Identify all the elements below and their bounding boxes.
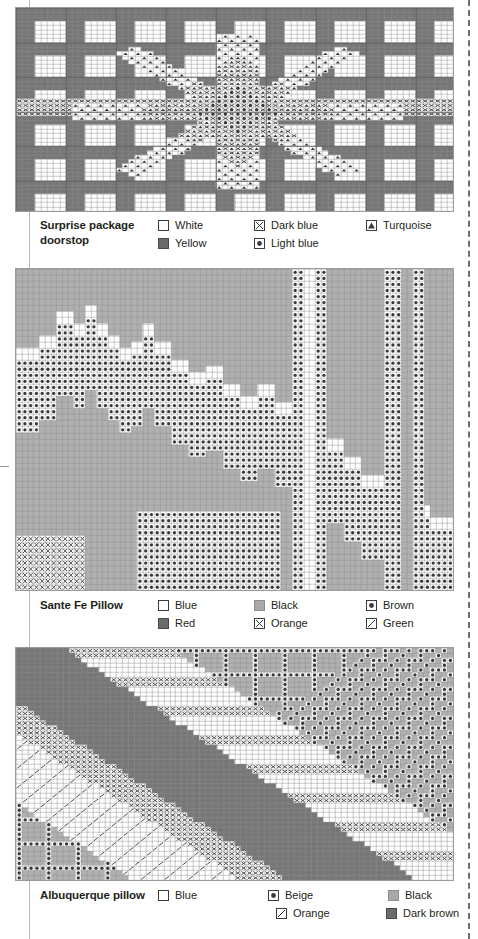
legend-label: Turquoise <box>383 218 432 232</box>
legend-key-dark-brown: Dark brown <box>386 906 478 920</box>
swatch-empty-square-icon <box>158 220 169 231</box>
swatch-slash-square-icon <box>276 908 287 919</box>
swatch-solid-square-icon <box>254 600 265 611</box>
page-root: Surprise package doorstop White Dark blu… <box>0 0 478 939</box>
legend-label: Yellow <box>175 236 206 250</box>
legend-key-empty-slot <box>366 236 476 250</box>
legend-key-orange: Orange <box>276 906 386 920</box>
chart-canvas-3 <box>15 647 454 881</box>
legend-key-turquoise: Turquoise <box>366 218 476 232</box>
legend-row-3-2: Orange Dark brown Light brown <box>158 906 478 920</box>
legend-label: Beige <box>285 888 313 902</box>
legend-label: Dark brown <box>403 906 459 920</box>
legend-label: Orange <box>293 906 330 920</box>
chart-albuquerque-pillow <box>15 647 454 881</box>
swatch-solid-square-icon <box>388 890 399 901</box>
chart-canvas-2 <box>15 268 454 591</box>
chart-title-2-line1: Sante Fe Pillow <box>40 598 158 613</box>
swatch-empty-square-icon <box>158 600 169 611</box>
legend-label: Dark blue <box>271 218 318 232</box>
legend-key-white: White <box>158 218 254 232</box>
legend-key-orange: Orange <box>254 616 366 630</box>
legend-row-2-2: Red Orange Green <box>158 616 476 630</box>
swatch-empty-square-icon <box>158 890 169 901</box>
legend-row-2-1: Blue Black Brown <box>158 598 476 612</box>
legend-key-brown: Brown <box>366 598 476 612</box>
chart-title-1-line1: Surprise package <box>40 218 158 233</box>
legend-label: Black <box>271 598 298 612</box>
legend-row-1-1: White Dark blue Turquoise <box>158 218 476 232</box>
legend-keys-1: White Dark blue Turquoise <box>158 218 476 254</box>
legend-row-1-2: Yellow Light blue <box>158 236 476 250</box>
swatch-slash-square-icon <box>366 618 377 629</box>
legend-label: Blue <box>175 888 197 902</box>
swatch-dot-square-icon <box>268 890 279 901</box>
legend-key-red: Red <box>158 616 254 630</box>
swatch-solid-square-icon <box>386 908 397 919</box>
chart-title-2: Sante Fe Pillow <box>40 598 158 613</box>
swatch-dot-square-icon <box>366 600 377 611</box>
legend-key-light-blue: Light blue <box>254 236 366 250</box>
swatch-cross-x-square-icon <box>254 220 265 231</box>
legend-indent-spacer <box>158 906 276 920</box>
legend-label: Brown <box>383 598 414 612</box>
legend-surprise-package-doorstop: Surprise package doorstop White Dark blu… <box>40 218 460 254</box>
legend-keys-2: Blue Black Brown <box>158 598 476 634</box>
legend-key-black: Black <box>388 888 478 902</box>
swatch-solid-square-icon <box>158 618 169 629</box>
legend-key-black: Black <box>254 598 366 612</box>
swatch-dot-square-icon <box>254 238 265 249</box>
legend-albuquerque-pillow: Albuquerque pillow Blue Beige <box>40 888 460 924</box>
legend-label: Orange <box>271 616 308 630</box>
legend-label: Green <box>383 616 414 630</box>
page-cut-mark <box>468 0 470 939</box>
legend-key-green: Green <box>366 616 476 630</box>
legend-key-yellow: Yellow <box>158 236 254 250</box>
legend-key-blue: Blue <box>158 598 254 612</box>
chart-title-1: Surprise package doorstop <box>40 218 158 247</box>
legend-label: White <box>175 218 203 232</box>
chart-sante-fe-pillow <box>15 268 454 591</box>
legend-label: Red <box>175 616 195 630</box>
legend-row-3-1: Blue Beige Black <box>158 888 478 902</box>
swatch-triangle-square-icon <box>366 220 377 231</box>
legend-sante-fe-pillow: Sante Fe Pillow Blue Black <box>40 598 460 634</box>
chart-title-1-line2: doorstop <box>40 233 158 248</box>
chart-title-3: Albuquerque pillow <box>40 888 158 903</box>
legend-label: Blue <box>175 598 197 612</box>
legend-label: Light blue <box>271 236 319 250</box>
chart-canvas-1 <box>15 7 454 212</box>
legend-keys-3: Blue Beige Black <box>158 888 478 924</box>
swatch-cross-x-square-icon <box>254 618 265 629</box>
legend-key-dark-blue: Dark blue <box>254 218 366 232</box>
chart-surprise-package-doorstop <box>15 7 454 212</box>
swatch-solid-square-icon <box>158 238 169 249</box>
chart-title-3-line1: Albuquerque pillow <box>40 888 158 903</box>
legend-key-beige: Beige <box>268 888 388 902</box>
page-left-tick <box>0 466 9 467</box>
legend-key-blue: Blue <box>158 888 268 902</box>
legend-label: Black <box>405 888 432 902</box>
